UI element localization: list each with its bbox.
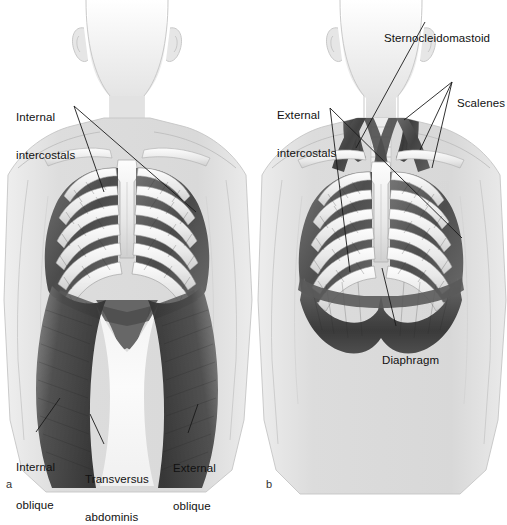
- label-external-oblique-line1: External: [173, 462, 216, 475]
- label-external-intercostals: External intercostals: [277, 84, 336, 185]
- label-sternocleidomastoid-line1: Sternocleidomastoid: [384, 32, 490, 45]
- label-scalenes-line1: Scalenes: [457, 97, 505, 110]
- label-internal-intercostals-line2: intercostals: [16, 149, 75, 162]
- label-internal-oblique-line2: oblique: [16, 499, 55, 512]
- panel-marker-b: b: [266, 478, 272, 490]
- label-internal-oblique-line1: Internal: [16, 461, 55, 474]
- label-transversus-abdominis-line1: Transversus: [85, 473, 149, 486]
- label-scalenes: Scalenes: [457, 72, 505, 135]
- label-diaphragm-line1: Diaphragm: [382, 354, 439, 367]
- label-external-oblique-line2: oblique: [173, 500, 216, 513]
- label-sternocleidomastoid: Sternocleidomastoid: [384, 7, 490, 70]
- label-internal-intercostals-line1: Internal: [16, 111, 75, 124]
- label-transversus-abdominis-line2: abdominis: [85, 511, 149, 524]
- label-internal-oblique: Internal oblique: [16, 436, 55, 525]
- label-external-intercostals-line2: intercostals: [277, 147, 336, 160]
- label-external-intercostals-line1: External: [277, 109, 336, 122]
- label-external-oblique: External oblique: [173, 437, 216, 525]
- label-diaphragm: Diaphragm: [382, 329, 439, 392]
- panel-marker-a: a: [6, 478, 12, 490]
- label-transversus-abdominis: Transversus abdominis: [85, 448, 149, 525]
- label-internal-intercostals: Internal intercostals: [16, 86, 75, 187]
